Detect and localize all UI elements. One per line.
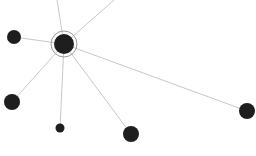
graph-node-n-left-bottom[interactable]: [4, 94, 20, 110]
center-node[interactable]: [54, 34, 74, 54]
edges: [12, 0, 247, 134]
graph-node-n-bottom-small[interactable]: [56, 124, 65, 133]
nodes: [4, 30, 255, 142]
edge-n-bottom-mid: [64, 44, 131, 134]
edge-n-left-bottom: [12, 44, 64, 102]
graph-node-n-right[interactable]: [239, 103, 255, 119]
edge-n-right: [64, 44, 247, 111]
graph-node-n-bottom-mid[interactable]: [123, 126, 139, 142]
network-graph: [0, 0, 256, 156]
graph-node-n-left-top[interactable]: [7, 30, 21, 44]
